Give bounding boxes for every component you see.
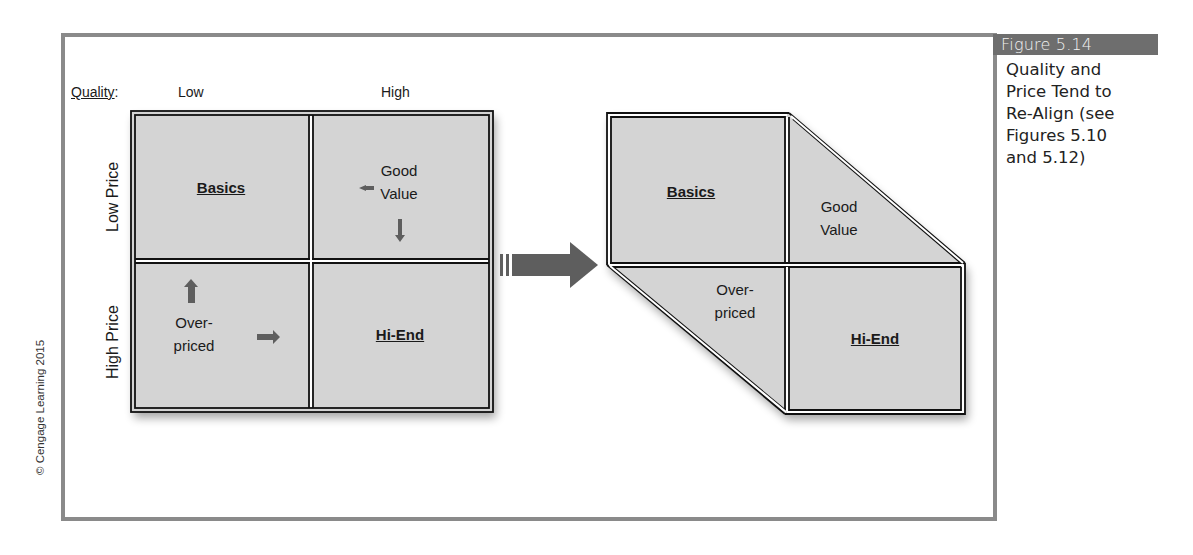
cell-line: Over- bbox=[168, 311, 220, 334]
right-basics-label: Basics bbox=[665, 183, 717, 200]
right-overpriced-label: Over- priced bbox=[708, 278, 762, 324]
left-overpriced-label: Over- priced bbox=[168, 311, 220, 357]
cell-line: priced bbox=[168, 334, 220, 357]
left-basics-label: Basics bbox=[195, 179, 247, 196]
left-good-value-label: Good Value bbox=[378, 159, 420, 205]
right-good-value-label: Good Value bbox=[817, 195, 861, 241]
transition-arrow-icon bbox=[500, 242, 598, 288]
matrix-diagram bbox=[0, 0, 1193, 555]
cell-line: Over- bbox=[708, 278, 762, 301]
cell-line: Good bbox=[378, 159, 420, 182]
left-hi-end-label: Hi-End bbox=[368, 326, 432, 343]
right-hi-end-label: Hi-End bbox=[843, 330, 907, 347]
cell-line: Value bbox=[817, 218, 861, 241]
cell-line: Value bbox=[378, 182, 420, 205]
cell-line: priced bbox=[708, 301, 762, 324]
cell-line: Good bbox=[817, 195, 861, 218]
